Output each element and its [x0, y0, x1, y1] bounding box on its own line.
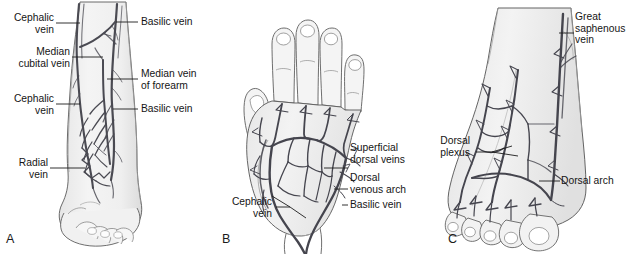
label-median-vein-of-forearm: Median vein of forearm — [141, 68, 215, 91]
nail-little-toe — [448, 222, 458, 231]
nail-big-toe — [529, 227, 549, 244]
label-basilic-vein-lower: Basilic vein — [141, 103, 213, 115]
panel-a-illustration — [0, 0, 214, 254]
nail-middle — [301, 25, 315, 37]
label-cephalic-vein-upper: Cephalic vein — [2, 12, 54, 35]
label-dorsal-venous-arch: Dorsal venous arch — [350, 172, 420, 195]
panel-c-foot: Great saphenous vein Dorsal plexus Dorsa… — [420, 0, 641, 254]
nail-ring — [324, 33, 337, 45]
label-dorsal-plexus: Dorsal plexus — [420, 135, 470, 158]
label-great-saphenous-vein: Great saphenous vein — [575, 11, 641, 46]
anatomy-figure: Cephalic vein Median cubital vein Cephal… — [0, 0, 641, 254]
panel-letter-a: A — [6, 232, 15, 246]
panel-letter-c: C — [448, 232, 457, 246]
nail-second-toe — [504, 232, 517, 244]
nail-index — [277, 33, 291, 45]
label-cephalic-vein: Cephalic vein — [216, 196, 272, 219]
label-superficial-dorsal-veins: Superficial dorsal veins — [350, 142, 420, 165]
label-basilic-vein: Basilic vein — [350, 199, 420, 211]
panel-b-hand: Superficial dorsal veins Dorsal venous a… — [214, 0, 420, 254]
label-basilic-vein-upper: Basilic vein — [141, 16, 213, 28]
label-cephalic-vein-lower: Cephalic vein — [2, 93, 54, 116]
panel-letter-b: B — [222, 232, 231, 246]
nail-third-toe — [484, 231, 496, 241]
label-radial-vein: Radial vein — [2, 157, 48, 180]
nail-little — [349, 60, 361, 71]
forearm-outline — [59, 2, 142, 243]
nail-fourth-toe — [465, 227, 476, 237]
label-median-cubital-vein: Median cubital vein — [0, 46, 70, 69]
panel-a-forearm: Cephalic vein Median cubital vein Cephal… — [0, 0, 214, 254]
foot-outline — [448, 8, 586, 232]
label-dorsal-arch: Dorsal arch — [561, 175, 637, 187]
